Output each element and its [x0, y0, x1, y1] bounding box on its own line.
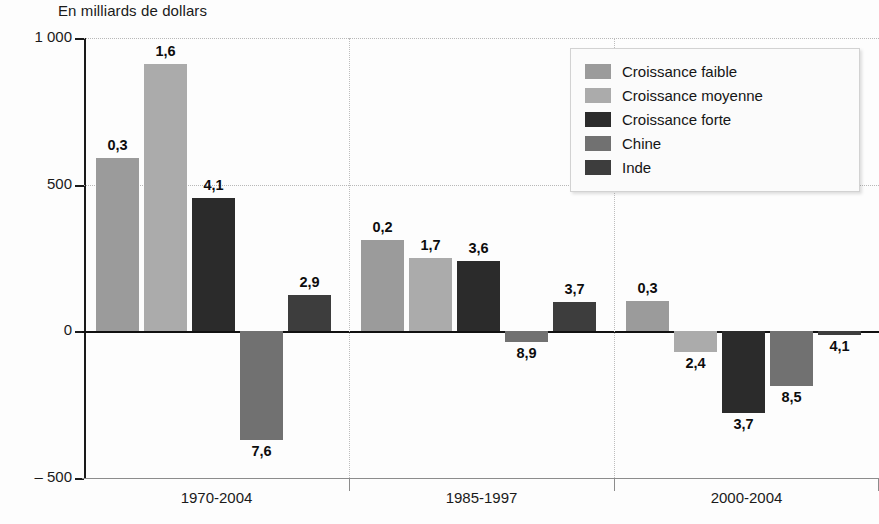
- bar: [144, 64, 187, 331]
- legend-swatch-icon: [585, 112, 611, 127]
- bar: [722, 331, 765, 413]
- bar: [457, 261, 500, 331]
- bar: [288, 295, 331, 332]
- x-tick-mark: [349, 478, 350, 491]
- y-tick-label: 500: [0, 175, 72, 192]
- chart-legend: Croissance faibleCroissance moyenneCrois…: [570, 48, 860, 192]
- bar: [192, 198, 235, 331]
- legend-swatch-icon: [585, 88, 611, 103]
- legend-label: Croissance faible: [622, 63, 737, 80]
- x-axis-line: [82, 478, 879, 479]
- legend-item: Inde: [585, 155, 847, 179]
- legend-item: Chine: [585, 131, 847, 155]
- legend-item: Croissance moyenne: [585, 83, 847, 107]
- x-axis-category-label: 2000-2004: [614, 489, 879, 506]
- x-axis-category-label: 1985-1997: [349, 489, 614, 506]
- bar: [553, 302, 596, 331]
- y-tick-mark: [75, 38, 84, 40]
- bar: [96, 158, 139, 331]
- bar-value-label: 1,6: [135, 43, 196, 59]
- legend-swatch-icon: [585, 64, 611, 79]
- bar-value-label: 7,6: [231, 443, 292, 459]
- legend-label: Croissance forte: [622, 111, 731, 128]
- bar-value-label: 8,9: [496, 345, 557, 361]
- gridline-vertical: [349, 38, 350, 478]
- y-tick-label: 1 000: [0, 28, 72, 45]
- bar-value-label: 0,3: [617, 280, 678, 296]
- bar-value-label: 4,1: [183, 177, 244, 193]
- bar: [626, 301, 669, 332]
- y-tick-label: 0: [0, 321, 72, 338]
- bar-value-label: 2,9: [279, 274, 340, 290]
- bar: [818, 331, 861, 335]
- bar-value-label: 4,1: [809, 338, 870, 354]
- bar: [770, 331, 813, 385]
- bar-value-label: 2,4: [665, 355, 726, 371]
- legend-item: Croissance faible: [585, 59, 847, 83]
- legend-swatch-icon: [585, 136, 611, 151]
- bar-value-label: 8,5: [761, 389, 822, 405]
- bar: [674, 331, 717, 352]
- bar-value-label: 3,7: [713, 416, 774, 432]
- chart-axis-title: En milliards de dollars: [58, 2, 207, 19]
- bar: [409, 258, 452, 331]
- bar-value-label: 0,3: [87, 137, 148, 153]
- bar: [505, 331, 548, 341]
- bar: [361, 240, 404, 331]
- y-tick-label: – 500: [0, 468, 72, 485]
- y-tick-mark: [75, 185, 84, 187]
- bar-chart: En milliards de dollars – 50005001 000 0…: [0, 0, 879, 524]
- x-tick-mark: [614, 478, 615, 491]
- bar-value-label: 0,2: [352, 219, 413, 235]
- bar-value-label: 3,7: [544, 281, 605, 297]
- x-axis-category-label: 1970-2004: [84, 489, 349, 506]
- bar: [240, 331, 283, 440]
- legend-swatch-icon: [585, 160, 611, 175]
- gridline-horizontal: [84, 38, 879, 39]
- legend-item: Croissance forte: [585, 107, 847, 131]
- legend-label: Croissance moyenne: [622, 87, 763, 104]
- legend-label: Chine: [622, 135, 661, 152]
- legend-label: Inde: [622, 159, 651, 176]
- bar-value-label: 3,6: [448, 240, 509, 256]
